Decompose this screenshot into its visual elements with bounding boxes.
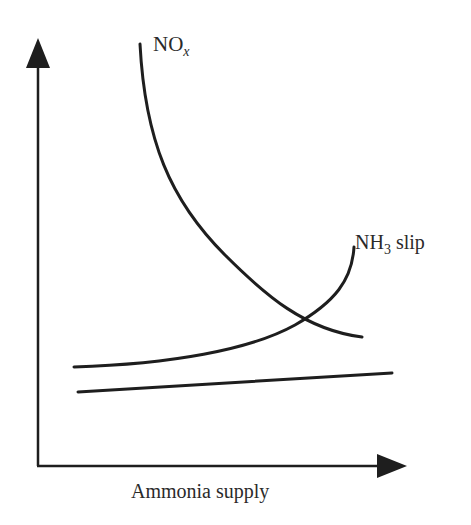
- x-axis-arrow-icon: [377, 454, 407, 478]
- nox-curve: [140, 44, 362, 337]
- x-axis-label: Ammonia supply: [131, 480, 269, 503]
- nh3-slip-curve: [74, 247, 354, 367]
- baseline-line: [78, 373, 392, 392]
- nh3-slip-label: NH3 slip: [355, 231, 425, 258]
- diagram-canvas: [0, 0, 471, 525]
- nox-label: NOx: [153, 32, 190, 60]
- y-axis-arrow-icon: [26, 38, 50, 68]
